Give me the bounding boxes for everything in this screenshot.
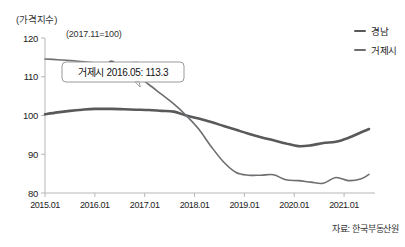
x-axis-tick-label: 2021.01 (329, 200, 359, 210)
y-axis-tick-label: 110 (24, 71, 38, 82)
annotation-callout-tail (135, 82, 140, 87)
y-axis-tick-label: 80 (28, 188, 38, 199)
y-axis-tick-label: 100 (23, 110, 38, 121)
x-axis-tick-label: 2016.01 (80, 200, 110, 210)
source-note: 자료: 한국부동산원 (332, 222, 399, 235)
x-axis-tick-label: 2019.01 (230, 200, 260, 210)
x-axis-tick-label: 2020.01 (279, 200, 309, 210)
chart-plot-area: 80901001101202015.012016.012017.012018.0… (0, 0, 405, 247)
y-axis-tick-label: 90 (28, 149, 38, 160)
annotation-callout-label: 거제시 2016.05: 113.3 (78, 67, 169, 78)
x-axis-tick-label: 2018.01 (180, 200, 210, 210)
x-axis-tick-label: 2017.01 (130, 200, 160, 210)
y-axis-tick-label: 120 (23, 33, 38, 44)
x-axis-tick-label: 2015.01 (30, 200, 60, 210)
price-index-chart: (가격지수) (2017.11=100) 경남 거제시 809010011012… (0, 0, 405, 247)
